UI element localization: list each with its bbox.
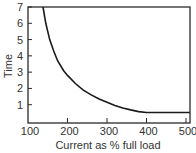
x-tick-label: 500: [179, 125, 196, 137]
x-tick-label: 100: [21, 125, 39, 137]
chart: 1234567 100200300400500 Current as % ful…: [0, 0, 196, 153]
y-tick-label: 7: [17, 1, 23, 13]
y-tick-label: 1: [17, 99, 23, 111]
y-tick-label: 3: [17, 66, 23, 78]
y-axis-title: Time: [2, 54, 14, 78]
x-tick-label: 300: [100, 125, 118, 137]
y-tick-label: 6: [17, 17, 23, 29]
x-tick-label: 200: [60, 125, 78, 137]
y-tick-label: 4: [17, 50, 23, 62]
y-tick-label: 5: [17, 34, 23, 46]
plot-frame: [28, 7, 190, 123]
x-axis: 100200300400500: [21, 118, 196, 137]
y-tick-label: 2: [17, 82, 23, 94]
y-axis: 1234567: [17, 1, 32, 111]
x-axis-title: Current as % full load: [55, 139, 160, 151]
curve-line: [43, 7, 190, 113]
x-tick-label: 400: [139, 125, 157, 137]
